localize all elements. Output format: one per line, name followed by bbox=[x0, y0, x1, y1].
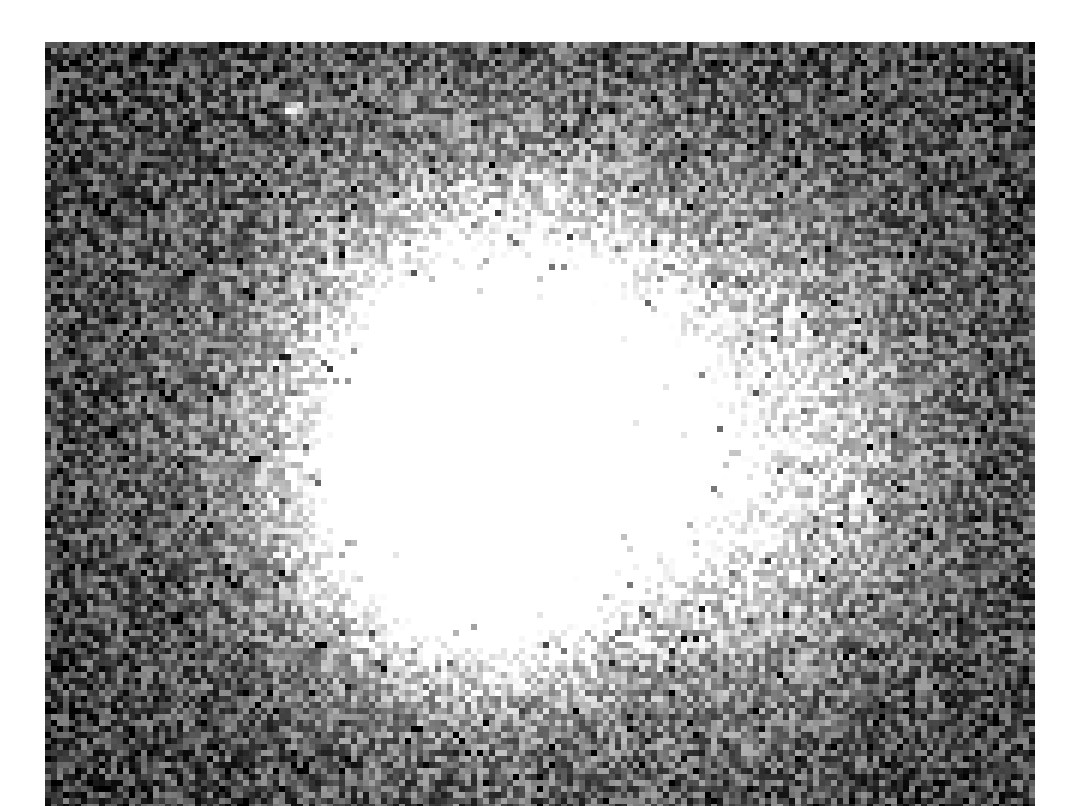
galaxy-image bbox=[45, 42, 1035, 806]
page bbox=[0, 0, 1070, 806]
astronomical-image-frame bbox=[45, 42, 1035, 806]
